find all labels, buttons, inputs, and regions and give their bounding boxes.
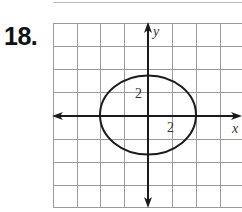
x-axis-label: x — [231, 121, 239, 136]
y-tick-label: 2 — [135, 86, 142, 101]
coordinate-graph: y x 2 2 — [0, 0, 242, 212]
y-axis-label: y — [151, 24, 160, 39]
x-tick-label: 2 — [167, 120, 174, 135]
